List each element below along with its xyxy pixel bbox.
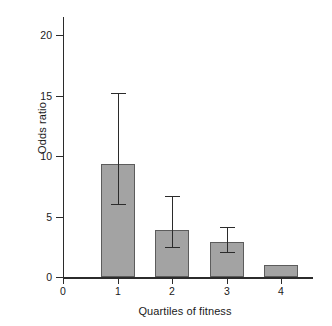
y-tick-0: [56, 277, 63, 278]
x-axis-line: [63, 277, 313, 279]
y-tick-label-0: 0: [26, 272, 52, 283]
x-tick-1: [118, 279, 119, 284]
x-tick-label-1: 1: [106, 286, 130, 297]
x-tick-4: [281, 279, 282, 284]
y-tick-5: [56, 217, 63, 218]
x-tick-0: [63, 279, 64, 284]
y-tick-label-10: 10: [26, 151, 52, 162]
y-axis-title: Odds ratio: [36, 68, 48, 188]
x-tick-label-2: 2: [160, 286, 184, 297]
y-axis-line: [63, 17, 64, 278]
x-tick-2: [172, 279, 173, 284]
bar-quartile-4: [264, 265, 298, 277]
y-tick-15: [56, 96, 63, 97]
x-tick-3: [227, 279, 228, 284]
y-tick-20: [56, 35, 63, 36]
y-tick-label-15: 15: [26, 91, 52, 102]
y-tick-label-20: 20: [26, 30, 52, 41]
x-tick-label-3: 3: [215, 286, 239, 297]
odds-ratio-bar-chart: Odds ratio 0 5 10 15 20 0 1 2 3 4: [0, 0, 332, 326]
x-tick-label-4: 4: [269, 286, 293, 297]
x-axis-title: Quartiles of fitness: [55, 305, 315, 317]
y-tick-label-5: 5: [26, 212, 52, 223]
y-tick-10: [56, 156, 63, 157]
x-tick-label-0: 0: [51, 286, 75, 297]
